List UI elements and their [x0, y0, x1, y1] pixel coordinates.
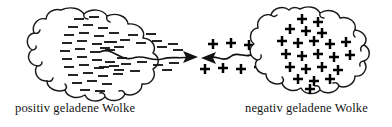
- plus-stream-arrowhead: [201, 52, 216, 64]
- cloud-scallop-detail: [354, 30, 356, 37]
- negative-cloud-group: [250, 7, 369, 94]
- positive-cloud-outline: [27, 8, 158, 101]
- cloud-scallop-detail: [65, 84, 67, 90]
- positive-cloud-caption: positiv geladene Wolke: [15, 101, 135, 115]
- charged-clouds-figure: positiv geladene Wolke negativ geladene …: [0, 0, 392, 127]
- positive-cloud-group: [27, 8, 158, 101]
- cloud-scallop-detail: [282, 77, 284, 83]
- negative-cloud-caption: negativ geladene Wolke: [245, 101, 368, 115]
- cloud-scallop-detail: [271, 15, 277, 17]
- plus-stream-wave: [209, 53, 255, 59]
